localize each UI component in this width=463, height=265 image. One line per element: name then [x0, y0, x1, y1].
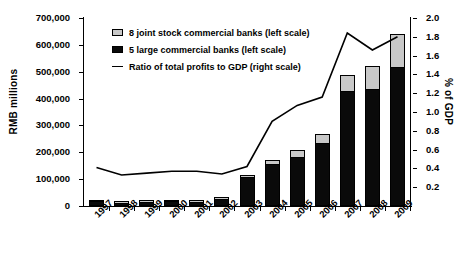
- legend-gray-swatch-icon: [112, 29, 123, 36]
- right-tick-mark: [413, 56, 417, 57]
- left-tick-label: 600,000: [0, 39, 70, 50]
- x-tick-mark: [410, 207, 411, 211]
- x-tick-mark: [109, 207, 110, 211]
- x-tick-mark: [159, 207, 160, 211]
- right-tick-label: 0.2: [426, 181, 439, 192]
- left-tick-label: 200,000: [0, 146, 70, 157]
- right-tick-mark: [413, 18, 417, 19]
- left-tick-label: 100,000: [0, 173, 70, 184]
- right-tick-mark: [413, 37, 417, 38]
- right-axis-line: [410, 17, 411, 207]
- x-tick-mark: [310, 207, 311, 211]
- x-tick-mark: [234, 207, 235, 211]
- right-tick-label: 1.4: [426, 68, 439, 79]
- x-tick-mark: [285, 207, 286, 211]
- legend-item-label: 5 large commercial banks (left scale): [129, 45, 286, 55]
- chart-legend: 8 joint stock commercial banks (left sca…: [112, 24, 362, 75]
- x-tick-mark: [335, 207, 336, 211]
- legend-item: Ratio of total profits to GDP (right sca…: [112, 58, 362, 75]
- right-tick-mark: [413, 74, 417, 75]
- chart-container: RMB millions % of GDP 0100,000200,000300…: [0, 0, 463, 265]
- left-axis-ticks: 0100,000200,000300,000400,000500,000600,…: [0, 0, 78, 265]
- legend-item: 5 large commercial banks (left scale): [112, 41, 362, 58]
- right-tick-mark: [413, 150, 417, 151]
- left-tick-label: 300,000: [0, 119, 70, 130]
- legend-item-label: Ratio of total profits to GDP (right sca…: [129, 62, 301, 72]
- legend-black-swatch-icon: [112, 46, 123, 53]
- right-tick-mark: [413, 93, 417, 94]
- left-tick-label: 700,000: [0, 12, 70, 23]
- left-tick-label: 500,000: [0, 66, 70, 77]
- legend-item-label: 8 joint stock commercial banks (left sca…: [129, 28, 310, 38]
- right-tick-label: 0.8: [426, 125, 439, 136]
- x-tick-mark: [134, 207, 135, 211]
- left-tick-label: 0: [0, 200, 70, 211]
- right-tick-label: 0.6: [426, 144, 439, 155]
- right-tick-mark: [413, 131, 417, 132]
- legend-line-marker-icon: [112, 66, 123, 67]
- right-axis-ticks: 0.20.40.60.81.01.21.41.61.82.0: [417, 0, 463, 265]
- right-tick-label: 0.4: [426, 162, 439, 173]
- x-tick-mark: [385, 207, 386, 211]
- x-tick-mark: [260, 207, 261, 211]
- right-tick-label: 1.2: [426, 87, 439, 98]
- x-tick-mark: [360, 207, 361, 211]
- left-tick-label: 400,000: [0, 93, 70, 104]
- right-tick-label: 1.6: [426, 50, 439, 61]
- right-tick-mark: [413, 112, 417, 113]
- right-tick-label: 1.0: [426, 106, 439, 117]
- right-tick-label: 1.8: [426, 31, 439, 42]
- right-tick-mark: [413, 187, 417, 188]
- right-tick-label: 2.0: [426, 12, 439, 23]
- right-tick-mark: [413, 168, 417, 169]
- x-tick-mark: [209, 207, 210, 211]
- legend-item: 8 joint stock commercial banks (left sca…: [112, 24, 362, 41]
- x-tick-mark: [184, 207, 185, 211]
